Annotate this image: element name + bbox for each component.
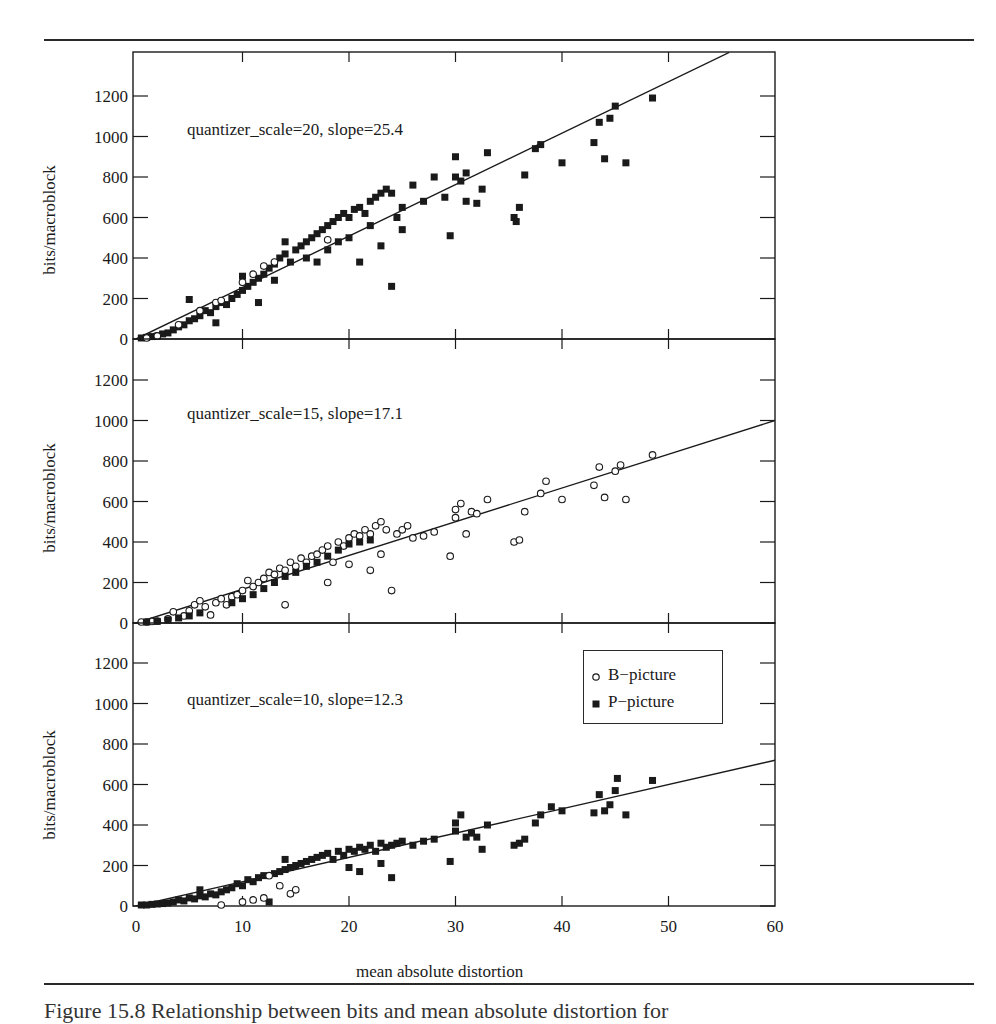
b-picture-point [207,612,214,619]
b-picture-point [484,496,491,503]
b-picture-point [250,271,257,278]
p-picture-point [420,838,427,845]
p-picture-point [606,801,613,808]
p-picture-point [314,259,321,266]
b-picture-point [463,531,470,538]
p-picture-point [484,822,491,829]
p-picture-point [457,811,464,818]
p-picture-point [441,194,448,201]
p-picture-point [622,159,629,166]
p-picture-point [356,204,363,211]
b-picture-point [431,529,438,536]
p-picture-point [548,803,555,810]
p-picture-point [361,210,368,217]
p-picture-point [463,169,470,176]
x-tick-label: 40 [554,917,571,936]
p-picture-point [282,250,289,257]
y-tick-label: 400 [103,533,129,552]
b-picture-point [378,551,385,558]
legend-item-b-picture: B−picture [608,665,676,685]
y-tick-label: 0 [120,614,129,633]
p-picture-point [282,856,289,863]
p-picture-point [521,836,528,843]
p-picture-point [649,777,656,784]
p-picture-point [356,259,363,266]
b-picture-point [388,587,395,594]
p-picture-point [186,296,193,303]
b-picture-point [143,335,150,342]
b-picture-point [271,259,278,266]
p-picture-point [388,283,395,290]
y-tick-label: 400 [103,816,129,835]
b-picture-point [324,579,331,586]
b-picture-point [239,899,246,906]
b-picture-point [218,902,225,909]
b-picture-point [452,506,459,513]
b-picture-point [276,882,283,889]
p-picture-point [513,218,520,225]
p-picture-point [420,198,427,205]
b-picture-point [521,508,528,515]
b-picture-point [420,533,427,540]
b-picture-point [458,500,465,507]
p-picture-point [457,178,464,185]
x-tick-label: 30 [447,917,464,936]
p-picture-point [196,886,203,893]
p-picture-point [196,609,203,616]
b-picture-point [261,575,268,582]
b-picture-point [197,597,204,604]
p-picture-point [601,155,608,162]
b-picture-point [367,567,374,574]
p-picture-point [590,139,597,146]
y-tick-label: 200 [103,857,129,876]
x-tick-label: 60 [767,917,784,936]
p-picture-point [175,614,182,621]
y-tick-label: 1200 [94,87,128,106]
p-picture-point [330,856,337,863]
panel-3-annotation: quantizer_scale=10, slope=12.3 [187,690,403,710]
b-picture-point [292,563,299,570]
b-picture-point [239,587,246,594]
b-picture-point [282,601,289,608]
b-picture-point [383,527,390,534]
p-picture-point [212,319,219,326]
b-picture-point [537,490,544,497]
p-picture-point [596,791,603,798]
p-picture-point [479,846,486,853]
b-picture-point [623,496,630,503]
p-picture-point [239,882,246,889]
b-picture-point [591,482,598,489]
p-picture-point [303,255,310,262]
p-picture-point [367,536,374,543]
p-picture-point [590,809,597,816]
x-axis-label: mean absolute distortion [356,962,523,982]
p-picture-point [346,864,353,871]
p-picture-point [399,204,406,211]
p-picture-point [303,563,310,570]
panel-1-fit-line [136,52,729,339]
p-picture-point [335,547,342,554]
b-picture-point [250,897,257,904]
y-tick-label: 1200 [94,371,128,390]
p-picture-point [154,618,161,625]
b-picture-point [596,464,603,471]
p-picture-point [606,115,613,122]
p-picture-point [479,186,486,193]
p-picture-point [377,242,384,249]
open-circle-icon [593,674,599,680]
b-picture-point [410,535,417,542]
filled-square-icon [593,701,600,708]
y-tick-label: 1000 [94,412,128,431]
p-picture-point [260,271,267,278]
p-picture-point [399,838,406,845]
b-picture-point [612,468,619,475]
legend-item-p-picture: P−picture [608,692,674,712]
b-picture-point [324,236,331,243]
p-picture-point [324,850,331,857]
p-picture-point [452,828,459,835]
y-tick-label: 0 [120,330,129,349]
p-picture-point [255,299,262,306]
y-tick-label: 1200 [94,654,128,673]
y-tick-label: 200 [103,574,129,593]
p-picture-point [372,848,379,855]
